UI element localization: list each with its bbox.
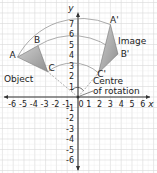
vertex-label-b-prime: B' bbox=[121, 49, 130, 59]
y-tick-label: 4 bbox=[69, 51, 74, 60]
vertex-label-a-prime: A' bbox=[110, 15, 119, 25]
x-tick-label: 5 bbox=[129, 100, 134, 109]
y-tick-label: 5 bbox=[69, 41, 74, 50]
y-tick-label: -5 bbox=[66, 146, 74, 155]
y-tick-label: -1 bbox=[66, 104, 74, 113]
x-axis-label: x bbox=[147, 99, 154, 109]
image-label: Image bbox=[118, 36, 147, 46]
rotation-diagram: -6-5-4-3-2-101234567654321-1-2-3-4-5-6xy… bbox=[0, 0, 157, 173]
y-tick-label: -2 bbox=[66, 114, 74, 123]
x-tick-label: 4 bbox=[119, 100, 124, 109]
x-axis-arrow-left-icon bbox=[4, 95, 8, 99]
y-tick-label: 6 bbox=[69, 30, 74, 39]
centre-label-line1: Centre bbox=[93, 76, 124, 86]
vertex-label-b: B bbox=[34, 35, 40, 45]
x-tick-label: -4 bbox=[30, 100, 38, 109]
centre-point bbox=[77, 96, 80, 99]
object-label: Object bbox=[4, 74, 34, 84]
vertex-label-c: C bbox=[49, 63, 55, 73]
x-tick-label: 3 bbox=[108, 100, 113, 109]
x-tick-label: -5 bbox=[19, 100, 27, 109]
vertex-label-a: A bbox=[9, 50, 16, 60]
x-tick-label: -3 bbox=[41, 100, 49, 109]
y-axis-label: y bbox=[67, 3, 74, 13]
y-tick-label: 1 bbox=[69, 83, 74, 92]
y-tick-label: 2 bbox=[69, 72, 74, 81]
y-tick-label: -6 bbox=[66, 156, 74, 165]
x-tick-label: -2 bbox=[51, 100, 59, 109]
x-tick-label: -6 bbox=[8, 100, 16, 109]
y-tick-label: 3 bbox=[69, 62, 74, 71]
x-tick-label: 0 bbox=[78, 100, 83, 109]
x-tick-label: 2 bbox=[97, 100, 102, 109]
centre-label-line2: of rotation bbox=[93, 86, 140, 96]
x-tick-label: 1 bbox=[86, 100, 91, 109]
y-tick-label: 7 bbox=[69, 20, 74, 29]
y-tick-label: -4 bbox=[66, 135, 74, 144]
y-tick-label: -3 bbox=[66, 125, 74, 134]
x-tick-label: 6 bbox=[140, 100, 145, 109]
